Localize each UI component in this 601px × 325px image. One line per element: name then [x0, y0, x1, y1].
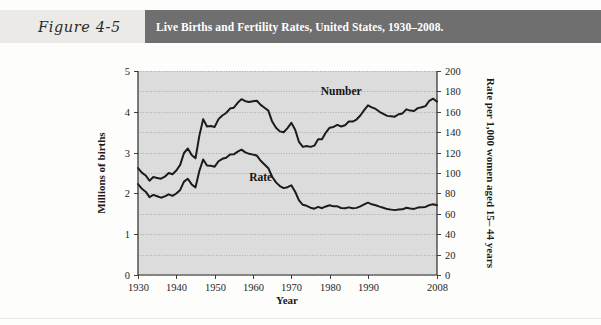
- figure-number-label: Figure 4-5: [38, 19, 121, 35]
- figure-title: Live Births and Fertility Rates, United …: [156, 21, 444, 33]
- right-tick-label: 140: [445, 127, 461, 138]
- left-tick-label: 2: [125, 188, 130, 199]
- x-tick-label: 1930: [128, 282, 149, 293]
- series-annotation-rate: Rate: [249, 171, 272, 183]
- plot-background: [138, 71, 437, 275]
- right-tick-label: 60: [445, 209, 456, 220]
- x-tick-label: 2008: [427, 282, 448, 293]
- y-axis-title: Millions of births: [95, 132, 107, 214]
- left-tick-label: 5: [125, 66, 130, 77]
- series-annotation-number: Number: [321, 85, 362, 97]
- left-tick-label: 1: [125, 229, 130, 240]
- x-axis-ticks: 19301940195019601970198019902008: [128, 275, 448, 293]
- left-tick-label: 3: [125, 148, 130, 159]
- figure-title-box: Live Births and Fertility Rates, United …: [145, 10, 601, 43]
- right-tick-label: 100: [445, 168, 461, 179]
- left-tick-label: 0: [125, 270, 130, 281]
- line-chart: 012345 020406080100120140160180200 19301…: [0, 50, 601, 310]
- x-tick-label: 1950: [205, 282, 226, 293]
- right-tick-label: 180: [445, 86, 461, 97]
- left-tick-label: 4: [125, 107, 131, 118]
- right-tick-label: 0: [445, 270, 450, 281]
- figure-number-box: Figure 4-5: [0, 10, 145, 43]
- right-tick-label: 20: [445, 250, 456, 261]
- x-tick-label: 1940: [166, 282, 187, 293]
- right-tick-label: 200: [445, 66, 461, 77]
- right-tick-label: 120: [445, 148, 461, 159]
- x-tick-label: 1980: [320, 282, 341, 293]
- right-tick-label: 40: [445, 229, 456, 240]
- left-axis-ticks: 012345: [125, 66, 138, 281]
- figure-page: Figure 4-5 Live Births and Fertility Rat…: [0, 0, 601, 325]
- y2-axis-title: Rate per 1,000 women aged 15– 44 years: [485, 78, 497, 269]
- right-tick-label: 160: [445, 107, 461, 118]
- x-tick-label: 1970: [281, 282, 302, 293]
- x-axis-title: Year: [276, 294, 298, 306]
- page-bottom-rule: [0, 318, 601, 319]
- figure-header-band: Figure 4-5 Live Births and Fertility Rat…: [0, 10, 601, 43]
- right-tick-label: 80: [445, 188, 456, 199]
- x-tick-label: 1990: [358, 282, 379, 293]
- chart-container: 012345 020406080100120140160180200 19301…: [0, 50, 601, 310]
- x-tick-label: 1960: [243, 282, 264, 293]
- right-axis-ticks: 020406080100120140160180200: [437, 66, 461, 281]
